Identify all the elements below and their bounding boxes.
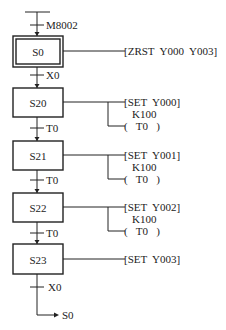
step-label: S23 (29, 254, 47, 266)
arrow-right-icon (54, 313, 59, 318)
transition-label: T0 (46, 122, 59, 134)
timer-preset: K100 (132, 213, 157, 225)
action-set: [SET Y000] (124, 96, 180, 108)
action-set: [SET Y003] (124, 253, 180, 265)
step-s0: S0 (13, 36, 63, 67)
timer-preset: K100 (132, 108, 157, 120)
step-label: S20 (29, 97, 47, 109)
jump-target-label: S0 (62, 309, 74, 321)
step-label: S0 (32, 46, 44, 58)
timer-preset: K100 (132, 161, 157, 173)
transition-label: X0 (46, 69, 60, 81)
step-label: S22 (29, 202, 46, 214)
action-set: [SET Y002] (124, 201, 180, 213)
timer-coil: ( T0 ) (124, 173, 160, 186)
step-s23: S23 (13, 244, 63, 274)
step-s20: S20 (13, 88, 63, 117)
step-s21: S21 (13, 141, 63, 170)
step-label: S21 (29, 150, 46, 162)
action-zrst: [ZRST Y000 Y003] (124, 45, 217, 57)
sfc-diagram: M8002 S0 [ZRST Y000 Y003] X0 S20 [SET Y0… (0, 0, 226, 330)
transition-label: X0 (48, 281, 62, 293)
timer-coil: ( T0 ) (124, 120, 160, 133)
transition-label: T0 (46, 174, 59, 186)
action-set: [SET Y001] (124, 149, 180, 161)
transition-label-m8002: M8002 (46, 19, 78, 31)
timer-coil: ( T0 ) (124, 225, 160, 238)
step-s22: S22 (13, 193, 63, 222)
transition-label: T0 (46, 227, 59, 239)
